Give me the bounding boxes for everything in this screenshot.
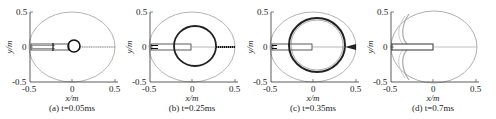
panel-c: 0.5 0 -0.5 -0.5 0 0.5 y/m x/m (c) t=0.35…: [241, 0, 365, 119]
x-axis-label: x/m: [371, 93, 495, 103]
ytick-mid: 0: [22, 43, 27, 52]
ytick-mid: 0: [263, 43, 268, 52]
x-axis-label: x/m: [251, 93, 375, 103]
ytick-top: 0.5: [136, 8, 147, 17]
ytick-mid: 0: [142, 43, 147, 52]
panel-b: 0.5 0 -0.5 -0.5 0 0.5 y/m x/m (b) t=0.25…: [120, 0, 244, 119]
x-axis-label: x/m: [130, 93, 254, 103]
ytick-mid: 0: [383, 43, 388, 52]
ytick-top: 0.5: [257, 8, 268, 17]
y-axis-label: y/m: [245, 41, 255, 54]
x-axis-label: x/m: [10, 93, 134, 103]
ytick-top: 0.5: [377, 8, 388, 17]
y-axis-label: y/m: [4, 41, 14, 54]
panel-d: 0.5 0 -0.5 -0.5 0 0.5 y/m x/m (d) t=0.7m…: [361, 0, 485, 119]
caption-c: (c) t=0.35ms: [251, 103, 375, 113]
caption-a: (a) t=0.05ms: [10, 103, 134, 113]
y-axis-label: y/m: [124, 41, 134, 54]
panel-a: 0.5 0 -0.5 -0.5 0 0.5 y/m x/m (a) t=0.05…: [0, 0, 124, 119]
ytick-top: 0.5: [16, 8, 27, 17]
caption-d: (d) t=0.7ms: [371, 103, 495, 113]
caption-b: (b) t=0.25ms: [130, 103, 254, 113]
y-axis-label: y/m: [365, 41, 375, 54]
